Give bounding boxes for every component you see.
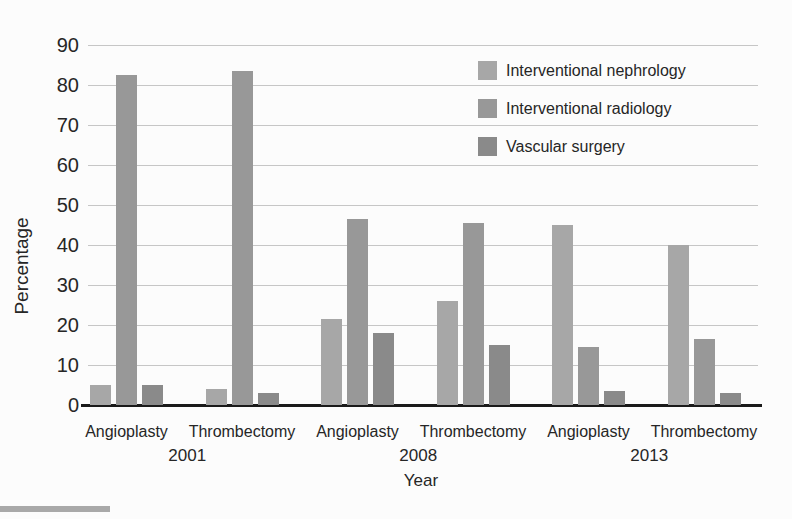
bar-s0-g1 xyxy=(206,389,227,405)
legend-item-radiology: Interventional radiology xyxy=(478,99,686,118)
gridline-10 xyxy=(88,365,758,366)
y-tick-label-0: 0 xyxy=(33,395,79,415)
x-category-label-5: Thrombectomy xyxy=(629,423,779,440)
bar-s1-g1 xyxy=(232,71,253,405)
x-year-label-2001: 2001 xyxy=(137,447,237,465)
legend: Interventional nephrology Interventional… xyxy=(478,61,686,156)
bar-s2-g5 xyxy=(720,393,741,405)
y-tick-label-40: 40 xyxy=(33,235,79,255)
bar-s1-g0 xyxy=(116,75,137,405)
y-tick-label-20: 20 xyxy=(33,315,79,335)
scan-artifact-line xyxy=(0,506,110,512)
bar-s2-g4 xyxy=(604,391,625,405)
x-axis-baseline xyxy=(81,404,762,407)
bar-s1-g2 xyxy=(347,219,368,405)
bar-s1-g4 xyxy=(578,347,599,405)
y-tick-label-30: 30 xyxy=(33,275,79,295)
legend-label-radiology: Interventional radiology xyxy=(506,99,671,118)
gridline-20 xyxy=(88,325,758,326)
legend-swatch-radiology xyxy=(478,99,497,118)
bar-s0-g5 xyxy=(668,245,689,405)
legend-swatch-nephrology xyxy=(478,61,497,80)
y-tick-label-10: 10 xyxy=(33,355,79,375)
bar-s0-g0 xyxy=(90,385,111,405)
gridline-60 xyxy=(88,165,758,166)
gridline-30 xyxy=(88,285,758,286)
bar-s0-g3 xyxy=(437,301,458,405)
gridline-90 xyxy=(88,45,758,46)
legend-label-nephrology: Interventional nephrology xyxy=(506,61,686,80)
y-tick-label-90: 90 xyxy=(33,35,79,55)
y-tick-label-70: 70 xyxy=(33,115,79,135)
bar-s0-g2 xyxy=(321,319,342,405)
y-tick-label-60: 60 xyxy=(33,155,79,175)
legend-label-vascular: Vascular surgery xyxy=(506,137,625,156)
bar-s1-g5 xyxy=(694,339,715,405)
legend-item-nephrology: Interventional nephrology xyxy=(478,61,686,80)
x-year-label-2013: 2013 xyxy=(599,447,699,465)
x-axis-title: Year xyxy=(371,472,471,490)
y-axis-title: Percentage xyxy=(12,186,32,346)
legend-item-vascular: Vascular surgery xyxy=(478,137,686,156)
bar-s1-g3 xyxy=(463,223,484,405)
gridline-50 xyxy=(88,205,758,206)
bar-s2-g3 xyxy=(489,345,510,405)
x-year-label-2008: 2008 xyxy=(368,447,468,465)
y-tick-label-80: 80 xyxy=(33,75,79,95)
gridline-40 xyxy=(88,245,758,246)
y-tick-label-50: 50 xyxy=(33,195,79,215)
bar-s2-g1 xyxy=(258,393,279,405)
bar-s2-g2 xyxy=(373,333,394,405)
bar-s2-g0 xyxy=(142,385,163,405)
bar-s0-g4 xyxy=(552,225,573,405)
legend-swatch-vascular xyxy=(478,137,497,156)
bar-chart-figure: 0102030405060708090AngioplastyThrombecto… xyxy=(0,0,792,519)
